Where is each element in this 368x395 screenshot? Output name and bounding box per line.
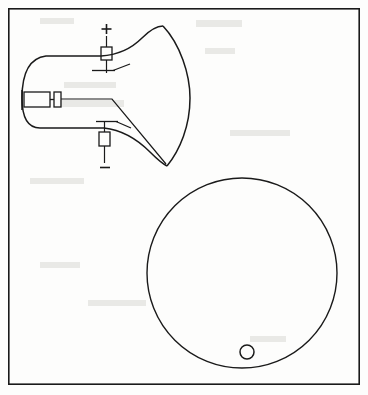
figure-container: Cathode ray tube with electrostatic defl… [0,0,368,395]
technical-diagram [0,0,368,395]
